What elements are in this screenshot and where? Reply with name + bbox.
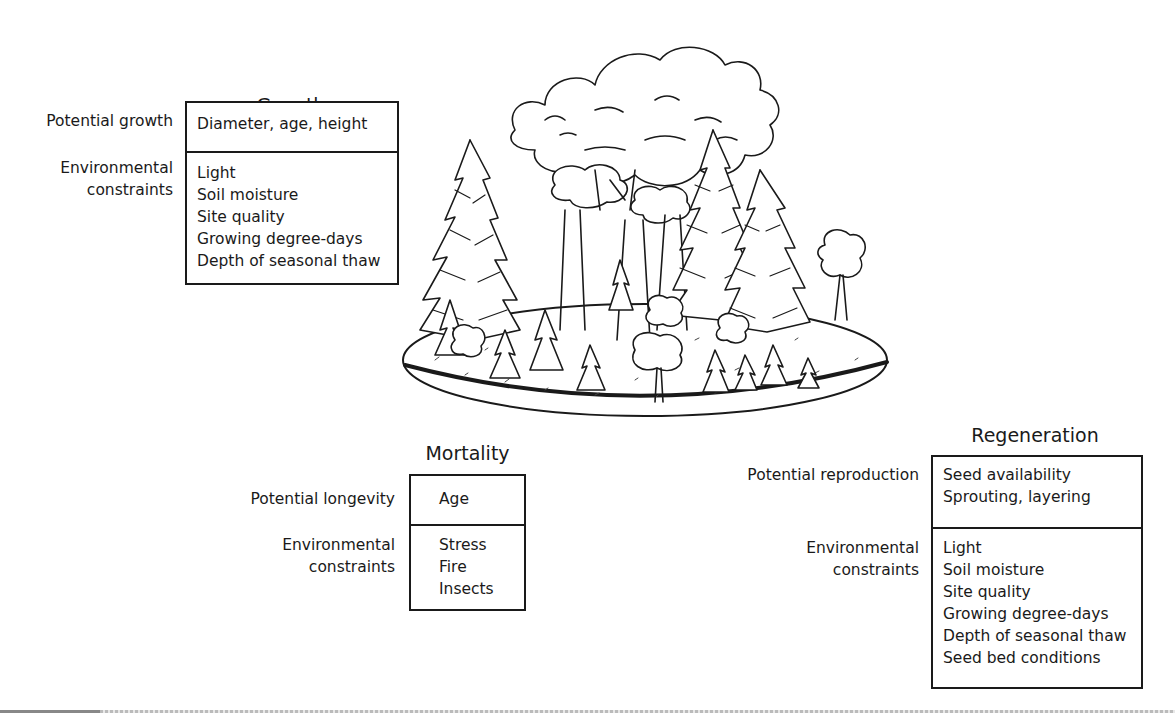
growth-potential-section: Diameter, age, height bbox=[187, 103, 397, 151]
mortality-title: Mortality bbox=[410, 442, 525, 464]
regeneration-potential-section: Seed availability Sprouting, layering bbox=[933, 457, 1141, 527]
mortality-potential-section: Age bbox=[411, 476, 524, 524]
mortality-environment-label: Environmental constraints bbox=[282, 534, 395, 578]
regeneration-environment-label: Environmental constraints bbox=[806, 537, 919, 581]
growth-box: Diameter, age, height Light Soil moistur… bbox=[185, 101, 399, 285]
growth-environment-label: Environmental constraints bbox=[60, 157, 173, 201]
regeneration-potential-label: Potential reproduction bbox=[747, 464, 919, 486]
conifer-left bbox=[420, 140, 520, 340]
regeneration-title: Regeneration bbox=[945, 424, 1125, 446]
forest-stand-illustration bbox=[395, 10, 905, 420]
mortality-environment-section: Stress Fire Insects bbox=[411, 524, 524, 606]
growth-environment-section: Light Soil moisture Site quality Growing… bbox=[187, 151, 397, 278]
regeneration-box: Seed availability Sprouting, layering Li… bbox=[931, 455, 1143, 689]
regeneration-environment-section: Light Soil moisture Site quality Growing… bbox=[933, 527, 1141, 675]
mortality-potential-label: Potential longevity bbox=[250, 488, 395, 510]
footer-rule bbox=[0, 710, 1175, 713]
mortality-box: Age Stress Fire Insects bbox=[409, 474, 526, 611]
growth-potential-label: Potential growth bbox=[46, 110, 173, 132]
